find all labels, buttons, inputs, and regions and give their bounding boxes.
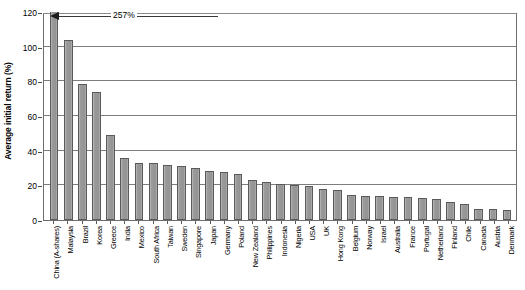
bar bbox=[177, 166, 186, 220]
bar-cell bbox=[61, 14, 75, 220]
bar bbox=[92, 92, 101, 220]
bar bbox=[347, 195, 356, 220]
bar bbox=[205, 171, 214, 220]
y-axis-tick-mark bbox=[38, 117, 42, 118]
x-axis-label-cell: Denmark bbox=[501, 225, 515, 290]
bar bbox=[64, 40, 73, 220]
x-axis-label-cell: Singapore bbox=[188, 225, 202, 290]
y-axis-tick-mark bbox=[38, 186, 42, 187]
x-axis-tick-mark bbox=[337, 221, 338, 224]
x-axis-tick-mark bbox=[153, 221, 154, 224]
y-axis-tick-label: 60 bbox=[28, 112, 37, 122]
x-axis-label-cell: Australia bbox=[387, 225, 401, 290]
y-axis-tick-label: 20 bbox=[28, 181, 37, 191]
x-axis-label-cell: Taiwan bbox=[160, 225, 174, 290]
bar-cell bbox=[104, 14, 118, 220]
bar bbox=[262, 182, 271, 220]
bar-cell bbox=[259, 14, 273, 220]
x-axis-tick-mark bbox=[295, 221, 296, 224]
y-axis-tick-label: 40 bbox=[28, 147, 37, 157]
bar bbox=[290, 185, 299, 220]
bar bbox=[305, 186, 314, 220]
bar-cell bbox=[415, 14, 429, 220]
bar bbox=[276, 184, 285, 220]
x-axis-tick-label: Denmark bbox=[508, 226, 516, 255]
bar bbox=[474, 209, 483, 220]
x-axis-tick-mark bbox=[110, 221, 111, 224]
x-axis-label-cell: Philippines bbox=[259, 225, 273, 290]
x-axis-label-cell: Hong Kong bbox=[330, 225, 344, 290]
x-axis-tick-mark bbox=[266, 221, 267, 224]
x-axis-tick-mark bbox=[465, 221, 466, 224]
bar bbox=[389, 197, 398, 220]
bar bbox=[375, 196, 384, 220]
x-axis-tick-mark bbox=[409, 221, 410, 224]
bar bbox=[460, 204, 469, 220]
bar-cell bbox=[146, 14, 160, 220]
x-axis-label-cell: Nigeria bbox=[288, 225, 302, 290]
x-axis-tick-mark bbox=[252, 221, 253, 224]
y-axis-tick-label: 80 bbox=[28, 77, 37, 87]
x-axis-tick-mark bbox=[423, 221, 424, 224]
x-axis-tick-mark bbox=[394, 221, 395, 224]
plot-area bbox=[43, 13, 517, 221]
x-axis-tick-mark bbox=[67, 221, 68, 224]
y-axis-tick-mark bbox=[38, 13, 42, 14]
x-axis-label-cell: Norway bbox=[359, 225, 373, 290]
bar bbox=[489, 209, 498, 220]
bar-cell bbox=[189, 14, 203, 220]
bar-cell bbox=[472, 14, 486, 220]
bar bbox=[135, 163, 144, 220]
bar bbox=[220, 172, 229, 220]
x-axis-label-cell: Israel bbox=[373, 225, 387, 290]
bar-cell bbox=[330, 14, 344, 220]
x-axis-tick-mark bbox=[281, 221, 282, 224]
x-axis-label-cell: Finland bbox=[444, 225, 458, 290]
bar-cell bbox=[288, 14, 302, 220]
x-axis-label-cell: Austria bbox=[487, 225, 501, 290]
x-axis-tick-mark bbox=[195, 221, 196, 224]
x-axis-tick-mark bbox=[494, 221, 495, 224]
bar bbox=[432, 199, 441, 220]
bar-series bbox=[44, 14, 516, 220]
bar-cell bbox=[429, 14, 443, 220]
bar-cell bbox=[174, 14, 188, 220]
bar bbox=[106, 135, 115, 220]
x-axis-label-cell: Mexico bbox=[131, 225, 145, 290]
chart-figure: Average initial return (%) 0204060801001… bbox=[0, 0, 525, 290]
x-axis-tick-mark bbox=[238, 221, 239, 224]
x-axis-label-cell: Chile bbox=[458, 225, 472, 290]
x-axis-label-cell: Canada bbox=[473, 225, 487, 290]
bar-cell bbox=[302, 14, 316, 220]
bar bbox=[503, 210, 512, 220]
bar bbox=[120, 158, 129, 220]
x-axis-label-cell: France bbox=[401, 225, 415, 290]
bar-cell bbox=[217, 14, 231, 220]
bar bbox=[163, 165, 172, 220]
bar-cell bbox=[47, 14, 61, 220]
x-axis-label-cell: Greece bbox=[103, 225, 117, 290]
bar-cell bbox=[245, 14, 259, 220]
x-axis-tick-mark bbox=[167, 221, 168, 224]
y-axis-tick-label: 100 bbox=[23, 43, 37, 53]
bar-cell bbox=[89, 14, 103, 220]
bar-cell bbox=[160, 14, 174, 220]
x-axis-label-cell: Malaysia bbox=[60, 225, 74, 290]
x-axis-label-cell: South Africa bbox=[146, 225, 160, 290]
x-axis-label-cell: Japan bbox=[202, 225, 216, 290]
bar-cell bbox=[500, 14, 514, 220]
bar bbox=[418, 198, 427, 220]
y-axis-tick-label: 0 bbox=[32, 216, 37, 226]
x-axis-label-cell: Netherland bbox=[430, 225, 444, 290]
x-axis-tick-mark bbox=[53, 221, 54, 224]
x-axis-tick-mark bbox=[380, 221, 381, 224]
bar bbox=[361, 196, 370, 220]
bar bbox=[191, 168, 200, 220]
x-axis-label-cell: China (A-shares) bbox=[46, 225, 60, 290]
x-axis-tick-mark bbox=[352, 221, 353, 224]
x-axis-label-cell: Sweden bbox=[174, 225, 188, 290]
x-axis-tick-mark bbox=[366, 221, 367, 224]
bar-cell bbox=[486, 14, 500, 220]
x-axis-label-cell: Brazil bbox=[74, 225, 88, 290]
x-axis-tick-mark bbox=[124, 221, 125, 224]
